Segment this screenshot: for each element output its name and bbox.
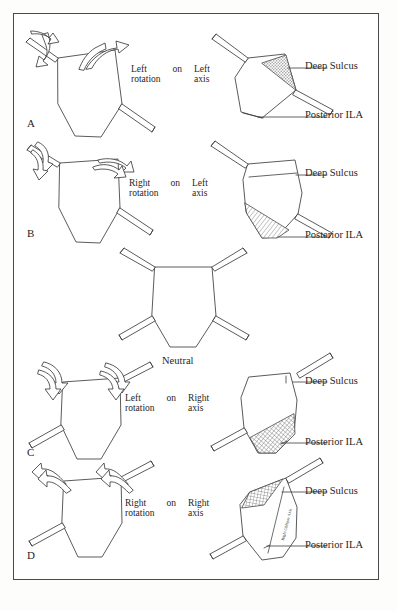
panel-d-direction: Right — [125, 498, 155, 508]
panel-c-spacer — [167, 403, 177, 413]
panel-a-preposition: on — [173, 64, 183, 74]
panel-c-preposition: on — [167, 393, 177, 403]
panel-d-axis-word: axis — [188, 508, 209, 518]
panel-b-condition: Right on Left rotation axis — [129, 178, 208, 198]
panel-d-callout-posterior-ila: Posterior ILA — [305, 539, 363, 550]
panel-d-axis-side: Right — [188, 498, 209, 508]
panel-letter-b: B — [27, 228, 35, 240]
panel-c-callout-posterior-ila: Posterior ILA — [305, 436, 363, 447]
panel-a-motion: rotation — [131, 74, 161, 84]
panel-c-condition: Left on Right rotation axis — [125, 393, 209, 413]
panel-b-callout-posterior-ila: Posterior ILA — [305, 229, 363, 240]
panel-d-preposition: on — [167, 498, 177, 508]
panel-c-motion: rotation — [125, 403, 155, 413]
panel-b-preposition: on — [171, 178, 181, 188]
panel-d-motion: rotation — [125, 508, 155, 518]
panel-a-callout-deep-sulcus: Deep Sulcus — [305, 60, 358, 71]
panel-c-axis-word: axis — [188, 403, 209, 413]
panel-b-motion: rotation — [129, 188, 159, 198]
panel-d-spacer — [167, 508, 177, 518]
panel-c-callout-deep-sulcus: Deep Sulcus — [305, 375, 358, 386]
panel-a-axis-side: Left — [194, 64, 210, 74]
panel-a-callout-posterior-ila: Posterior ILA — [305, 109, 363, 120]
figure-root: A Left on Left rotation axis Deep Sulcus… — [0, 0, 397, 611]
panel-letter-c: C — [27, 447, 35, 459]
panel-d-callout-deep-sulcus: Deep Sulcus — [305, 485, 358, 496]
panel-letter-d: D — [27, 550, 35, 562]
panel-a-axis-word: axis — [194, 74, 210, 84]
panel-b-axis-side: Left — [192, 178, 208, 188]
panel-c-axis-side: Right — [188, 393, 209, 403]
panel-b-direction: Right — [129, 178, 159, 188]
panel-b-axis-word: axis — [192, 188, 208, 198]
panel-d-condition: Right on Right rotation axis — [125, 498, 209, 518]
panel-b-spacer — [171, 188, 181, 198]
panel-a-direction: Left — [131, 64, 161, 74]
neutral-label: Neutral — [162, 355, 194, 366]
panel-a-condition: Left on Left rotation axis — [131, 64, 210, 84]
panel-letter-a: A — [27, 118, 35, 130]
panel-c-direction: Left — [125, 393, 155, 403]
panel-a-spacer — [173, 74, 183, 84]
panel-b-callout-deep-sulcus: Deep Sulcus — [305, 167, 358, 178]
